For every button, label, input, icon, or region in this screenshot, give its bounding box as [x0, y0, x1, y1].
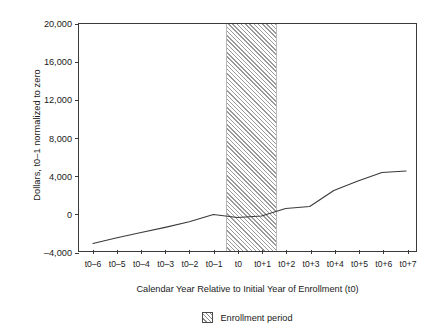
x-tick-label: t0+4	[327, 259, 344, 269]
x-tick-label: t0+7	[400, 259, 417, 269]
x-tick-label: t0–6	[85, 259, 102, 269]
y-tick-label: 16,000	[44, 55, 72, 69]
x-tick-label: t0+5	[351, 259, 368, 269]
x-tick-label: t0+3	[303, 259, 320, 269]
y-tick-label: 0	[67, 208, 72, 222]
y-tick-label: –4,000	[44, 246, 72, 260]
x-tick-label: t0–5	[109, 259, 126, 269]
y-tick-label: 12,000	[44, 93, 72, 107]
x-tick-label: t0–2	[182, 259, 199, 269]
chart-figure: Dollars, t0–1 normalized to zero 20,0001…	[0, 0, 437, 336]
x-tick-label: t0+2	[278, 259, 295, 269]
x-axis-title: Calendar Year Relative to Initial Year o…	[78, 284, 417, 294]
chart-legend: Enrollment period	[78, 312, 417, 323]
x-tick-label: t0–4	[133, 259, 150, 269]
x-tick-label: t0–1	[206, 259, 223, 269]
y-axis-title: Dollars, t0–1 normalized to zero	[32, 20, 42, 250]
enrollment-period-swatch-icon	[202, 312, 213, 323]
plot-area: 20,00016,00012,0008,0004,0000–4,000 t0–6…	[78, 23, 417, 252]
y-tick-mark	[75, 253, 79, 254]
y-tick-label: 4,000	[49, 170, 72, 184]
series-line-path	[93, 171, 406, 243]
x-tick-label: t0+6	[375, 259, 392, 269]
x-tick-label: t0–3	[157, 259, 174, 269]
series-line-chart	[79, 24, 416, 251]
legend-label-enrollment-period: Enrollment period	[220, 313, 292, 323]
y-tick-label: 20,000	[44, 17, 72, 31]
x-tick-label: t0	[235, 259, 242, 269]
x-tick-label: t0+1	[254, 259, 271, 269]
y-tick-label: 8,000	[49, 132, 72, 146]
